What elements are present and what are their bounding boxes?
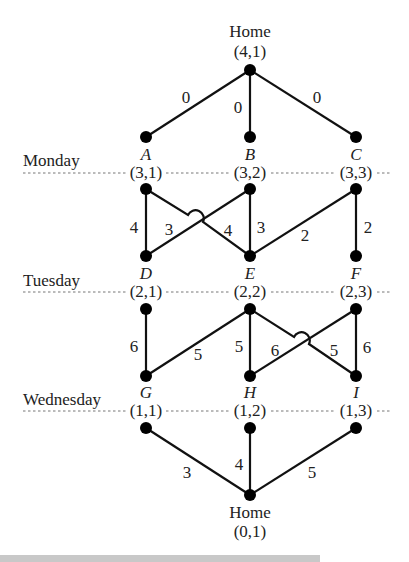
weight-I-home: 5 bbox=[308, 463, 317, 482]
node-home-bottom bbox=[244, 489, 256, 501]
node-G-out bbox=[140, 422, 152, 434]
weight-A-E: 4 bbox=[224, 221, 233, 240]
node-B bbox=[244, 131, 256, 143]
node-E-out bbox=[244, 303, 256, 315]
node-label-I: I bbox=[352, 383, 360, 402]
node-label-C: C bbox=[350, 145, 362, 164]
node-A-out bbox=[140, 183, 152, 195]
node-A bbox=[140, 131, 152, 143]
node-coord-C: (3,3) bbox=[340, 163, 373, 182]
node-B-out bbox=[244, 183, 256, 195]
day-label-wednesday: Wednesday bbox=[23, 390, 101, 409]
node-coord-A: (3,1) bbox=[130, 163, 163, 182]
weight-home-B: 0 bbox=[234, 98, 243, 117]
node-coord-I: (1,3) bbox=[340, 401, 373, 420]
day-label-tuesday: Tuesday bbox=[23, 271, 80, 290]
day-label-monday: Monday bbox=[23, 151, 80, 170]
weight-home-A: 0 bbox=[182, 88, 191, 107]
node-C bbox=[350, 131, 362, 143]
node-D bbox=[140, 250, 152, 262]
node-label-E: E bbox=[244, 264, 256, 283]
node-D-out bbox=[140, 303, 152, 315]
node-label-F: F bbox=[350, 264, 362, 283]
weight-B-D: 3 bbox=[165, 220, 174, 239]
weight-B-E: 3 bbox=[257, 218, 266, 237]
node-E bbox=[244, 250, 256, 262]
node-H bbox=[244, 370, 256, 382]
weight-C-F: 2 bbox=[364, 218, 373, 237]
node-I bbox=[350, 370, 362, 382]
node-coord-F: (2,3) bbox=[340, 282, 373, 301]
home-bottom-coord: (0,1) bbox=[234, 522, 267, 541]
node-F-out bbox=[350, 303, 362, 315]
weight-E-H: 5 bbox=[235, 337, 244, 356]
node-label-B: B bbox=[245, 145, 256, 164]
node-G bbox=[140, 370, 152, 382]
edge-I-home bbox=[250, 428, 356, 495]
node-home-top bbox=[244, 64, 256, 76]
weight-F-H: 6 bbox=[271, 341, 280, 360]
node-H-out bbox=[244, 422, 256, 434]
node-label-G: G bbox=[140, 383, 152, 402]
node-coord-G: (1,1) bbox=[130, 401, 163, 420]
weight-E-G: 5 bbox=[194, 345, 203, 364]
node-coord-E: (2,2) bbox=[234, 282, 267, 301]
stage-network-diagram: Monday Tuesday Wednesday Home (4,1) 0 0 … bbox=[0, 0, 409, 562]
weight-A-D: 4 bbox=[130, 218, 139, 237]
node-coord-B: (3,2) bbox=[234, 163, 267, 182]
node-coord-D: (2,1) bbox=[130, 282, 163, 301]
home-top-coord: (4,1) bbox=[234, 42, 267, 61]
node-I-out bbox=[350, 422, 362, 434]
node-C-out bbox=[350, 183, 362, 195]
weight-E-I: 5 bbox=[330, 341, 339, 360]
home-bottom-label: Home bbox=[229, 503, 271, 522]
weight-H-home: 4 bbox=[235, 455, 244, 474]
weight-G-home: 3 bbox=[183, 463, 192, 482]
node-label-D: D bbox=[139, 264, 153, 283]
bottom-gray-bar bbox=[0, 555, 320, 562]
edge-C-E bbox=[250, 189, 356, 256]
weight-F-I: 6 bbox=[363, 338, 372, 357]
edge-home-C bbox=[250, 70, 356, 137]
node-label-A: A bbox=[140, 145, 152, 164]
node-coord-H: (1,2) bbox=[234, 401, 267, 420]
node-F bbox=[350, 250, 362, 262]
weight-home-C: 0 bbox=[313, 88, 322, 107]
home-top-label: Home bbox=[229, 22, 271, 41]
node-label-H: H bbox=[243, 383, 258, 402]
weight-D-G: 6 bbox=[130, 337, 139, 356]
weight-C-E: 2 bbox=[301, 226, 310, 245]
